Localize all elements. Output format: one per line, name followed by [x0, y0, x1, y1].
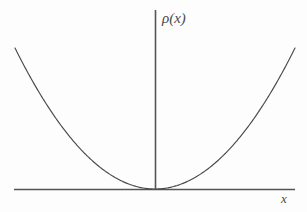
y-axis-label: ρ(x) — [162, 11, 186, 26]
x-axis-label: x — [281, 192, 287, 205]
plot-canvas — [0, 0, 307, 212]
figure-plot-rho-of-x: ρ(x) x — [0, 0, 307, 212]
axes-group — [14, 10, 295, 190]
